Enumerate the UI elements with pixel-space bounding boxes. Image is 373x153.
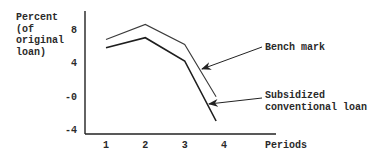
y-tick-label: -4 xyxy=(65,125,77,136)
x-tick-label: 1 xyxy=(103,140,109,151)
y-tick-labels: 84-0-4 xyxy=(65,25,77,136)
annotation-subsidized-conventional-loan-line: Subsidized xyxy=(265,90,325,101)
annotations: Bench markSubsidizedconventional loan xyxy=(202,42,367,113)
arrow-subsidized-conventional-loan xyxy=(209,98,262,104)
line-chart: Percent(oforiginalloan) 84-0-4 1234 Peri… xyxy=(0,0,373,153)
x-axis-label: Periods xyxy=(265,140,307,151)
arrow-bench-mark xyxy=(202,47,262,69)
annotation-subsidized-conventional-loan-line: conventional loan xyxy=(265,102,367,113)
y-axis-label-line: loan) xyxy=(16,47,46,58)
y-tick-label: 8 xyxy=(71,25,77,36)
series-lines xyxy=(106,24,216,121)
y-tick-label: 4 xyxy=(71,58,77,69)
series-line-subsidized-conventional-loan xyxy=(106,38,216,121)
y-axis-label-line: Percent xyxy=(16,12,58,23)
x-tick-labels: 1234 xyxy=(103,140,227,151)
series-line-bench-mark xyxy=(106,24,216,96)
x-tick-label: 4 xyxy=(221,140,227,151)
y-tick-label: -0 xyxy=(65,92,77,103)
y-axis-label-line: original xyxy=(16,35,64,46)
y-axis-label-line: (of xyxy=(16,24,34,35)
annotation-bench-mark: Bench mark xyxy=(265,42,325,53)
x-tick-label: 3 xyxy=(182,140,188,151)
x-tick-label: 2 xyxy=(142,140,148,151)
y-axis-label: Percent(oforiginalloan) xyxy=(16,12,64,58)
